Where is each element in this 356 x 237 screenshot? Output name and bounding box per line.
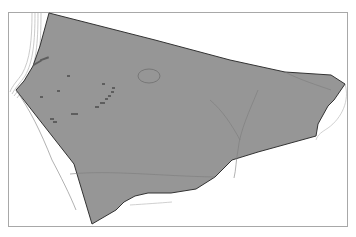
map-view[interactable]	[0, 0, 356, 237]
map-canvas[interactable]	[0, 0, 356, 237]
